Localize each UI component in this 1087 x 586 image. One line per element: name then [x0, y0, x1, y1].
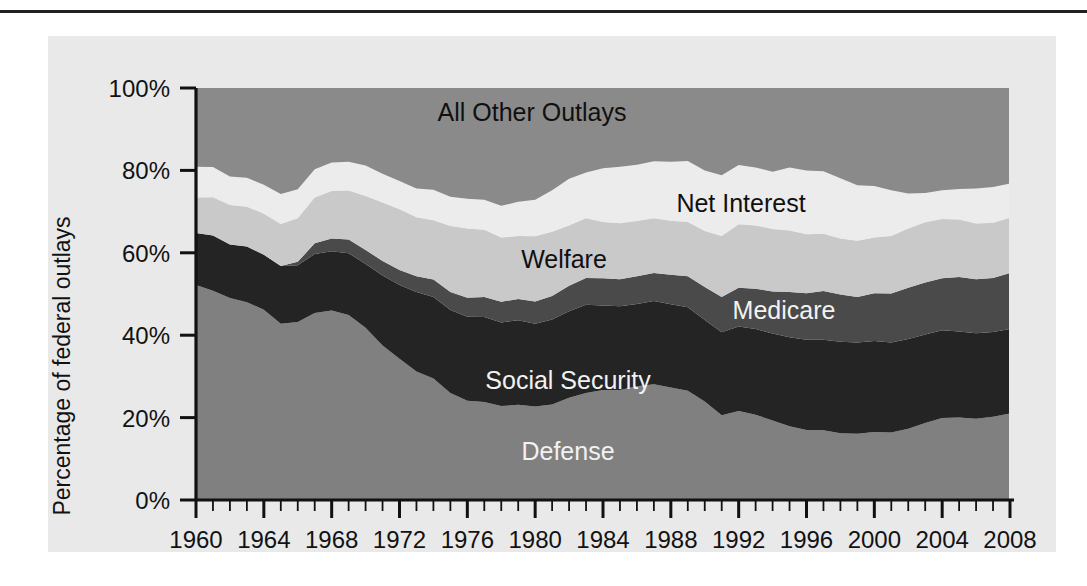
series-label-defense: Defense: [521, 437, 614, 465]
series-label-social-security: Social Security: [485, 366, 651, 394]
stacked-area-chart: 0%20%40%60%80%100% 196019641968197219761…: [48, 36, 1056, 552]
y-tick-label: 100%: [109, 75, 170, 102]
x-tick-label: 1980: [508, 526, 561, 552]
y-tick-label: 40%: [122, 322, 170, 349]
x-tick-label: 1972: [373, 526, 426, 552]
x-tick-label: 1988: [644, 526, 697, 552]
x-tick-label: 2008: [983, 526, 1036, 552]
series-label-welfare: Welfare: [521, 245, 607, 273]
series-label-net-interest: Net Interest: [676, 189, 805, 217]
x-tick-label: 1968: [305, 526, 358, 552]
x-tick-label: 1964: [237, 526, 290, 552]
y-tick-label: 80%: [122, 157, 170, 184]
x-tick-label: 2000: [848, 526, 901, 552]
y-tick-label: 0%: [135, 487, 170, 514]
x-tick-label: 1960: [169, 526, 222, 552]
x-tick-label: 1984: [576, 526, 629, 552]
x-tick-label: 1976: [441, 526, 494, 552]
x-tick-label: 1992: [712, 526, 765, 552]
figure-page: 0%20%40%60%80%100% 196019641968197219761…: [0, 0, 1087, 586]
series-label-all-other-outlays: All Other Outlays: [438, 98, 627, 126]
y-tick-label: 20%: [122, 405, 170, 432]
y-axis-title: Percentage of federal outlays: [49, 216, 75, 515]
chart-figure-panel: 0%20%40%60%80%100% 196019641968197219761…: [48, 36, 1056, 552]
top-rule-divider: [0, 10, 1087, 13]
x-tick-label: 1996: [780, 526, 833, 552]
x-tick-label: 2004: [915, 526, 968, 552]
y-tick-label: 60%: [122, 240, 170, 267]
series-label-medicare: Medicare: [733, 296, 836, 324]
plot-right-edge-mask: [1009, 86, 1015, 502]
